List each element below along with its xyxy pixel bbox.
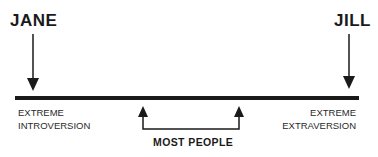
- continuum-axis-line: [15, 96, 359, 100]
- most-people-label: MOST PEOPLE: [153, 136, 233, 148]
- jane-label: JANE: [10, 11, 57, 31]
- right-pole-line-2: EXTRAVERSION: [282, 119, 356, 132]
- extreme-extraversion-label: EXTREME EXTRAVERSION: [282, 106, 356, 132]
- jill-label: JILL: [334, 11, 371, 31]
- right-pole-line-1: EXTREME: [282, 106, 356, 119]
- extreme-introversion-label: EXTREME INTROVERSION: [18, 106, 90, 132]
- jane-arrow-icon: [27, 34, 39, 91]
- jill-arrow-icon: [343, 34, 355, 89]
- left-pole-line-2: INTROVERSION: [18, 119, 90, 132]
- left-pole-line-1: EXTREME: [18, 106, 90, 119]
- most-people-bracket-icon: [138, 106, 244, 129]
